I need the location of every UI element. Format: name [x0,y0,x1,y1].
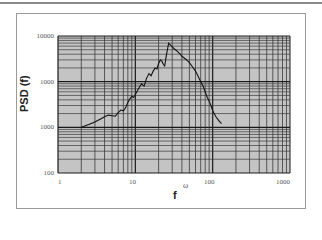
omega-annotation: ω [183,181,188,190]
x-tick-label: 10 [129,178,136,186]
y-tick-label: 1000 [24,123,54,131]
x-tick-label: 1000 [276,178,290,186]
y-axis-title: PSD (f) [18,75,30,112]
x-tick-label: 100 [204,178,215,186]
y-tick-label: 10000 [24,32,54,40]
x-axis-title: f [173,189,177,201]
y-tick-label: 100 [24,169,54,177]
x-tick-label: 1 [58,178,62,186]
